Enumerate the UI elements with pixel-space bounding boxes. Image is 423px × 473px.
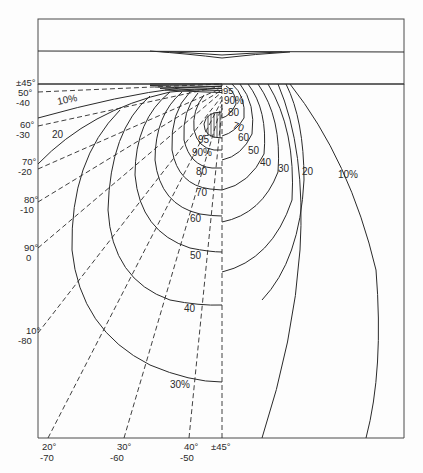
contour-right-10	[290, 84, 378, 438]
bottom-label-30: 30°	[117, 441, 132, 452]
contour-right-30	[262, 84, 301, 438]
label-left-30: 30%	[170, 379, 190, 390]
plate-line	[38, 51, 404, 52]
stress-contour-diagram: ±45° 50° -40 60° -30 70° -20 80° -10 90°…	[0, 0, 423, 473]
label-left-95: 95	[198, 134, 210, 145]
label-right-80: 80	[228, 107, 240, 118]
label-right-60: 60	[238, 132, 250, 143]
left-axis-labels: ±45° 50° -40 60° -30 70° -20 80° -10 90°…	[16, 77, 41, 346]
label-left-50: 50	[190, 250, 202, 261]
left-label-neg10: -10	[20, 204, 34, 215]
label-right-90: 90%	[224, 95, 244, 106]
label-left-60: 60	[190, 213, 202, 224]
bottom-label-neg60: -60	[110, 452, 124, 463]
main-frame	[38, 84, 404, 438]
label-left-40: 40	[184, 303, 196, 314]
label-left-20: 20	[52, 129, 64, 140]
label-right-30: 30	[278, 163, 290, 174]
label-right-20: 20	[302, 166, 314, 177]
label-left-80: 80	[196, 166, 208, 177]
left-label-0: 0	[26, 252, 31, 263]
label-right-10: 10%	[338, 169, 358, 180]
label-right-50: 50	[248, 145, 260, 156]
left-label-neg40: -40	[16, 97, 30, 108]
core-hatch	[208, 112, 220, 138]
label-left-70: 70	[196, 187, 208, 198]
label-right-40: 40	[260, 157, 272, 168]
dash-80	[38, 90, 222, 202]
bottom-axis-labels: 20° -70 30° -60 40° -50 ±45°	[40, 441, 231, 463]
left-label-neg30: -30	[16, 129, 30, 140]
left-contours	[38, 86, 222, 382]
top-panel	[38, 19, 404, 84]
bottom-label-neg70: -70	[40, 452, 54, 463]
left-label-neg20: -20	[18, 166, 32, 177]
bottom-label-40: 40°	[184, 441, 199, 452]
left-contour-labels: 10% 20 30% 40 50 60 70 80 90% 95	[52, 92, 212, 390]
dashed-direction-lines	[38, 84, 222, 438]
contour-left-40	[108, 96, 222, 305]
bottom-label-45: ±45°	[211, 441, 231, 452]
label-left-90: 90%	[192, 147, 212, 158]
label-left-10: 10%	[56, 92, 78, 107]
bottom-label-20: 20°	[42, 441, 57, 452]
bottom-label-neg50: -50	[180, 452, 194, 463]
left-label-neg80: -80	[18, 335, 32, 346]
